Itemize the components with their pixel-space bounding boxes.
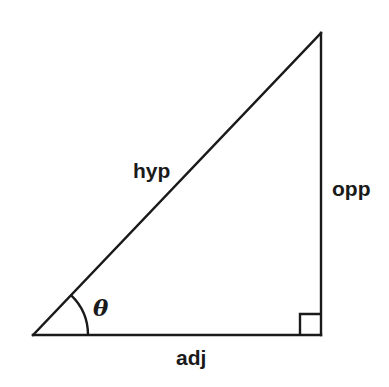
adjacent-label: adj: [176, 347, 206, 368]
right-angle-marker: [300, 314, 321, 335]
hypotenuse-label: hyp: [133, 160, 170, 181]
diagram-canvas: hyp opp adj θ: [0, 0, 389, 387]
opposite-label: opp: [332, 178, 370, 199]
right-triangle-diagram: [0, 0, 389, 387]
angle-arc: [71, 295, 88, 335]
hypotenuse-line: [33, 33, 321, 335]
theta-angle-label: θ: [93, 296, 108, 319]
